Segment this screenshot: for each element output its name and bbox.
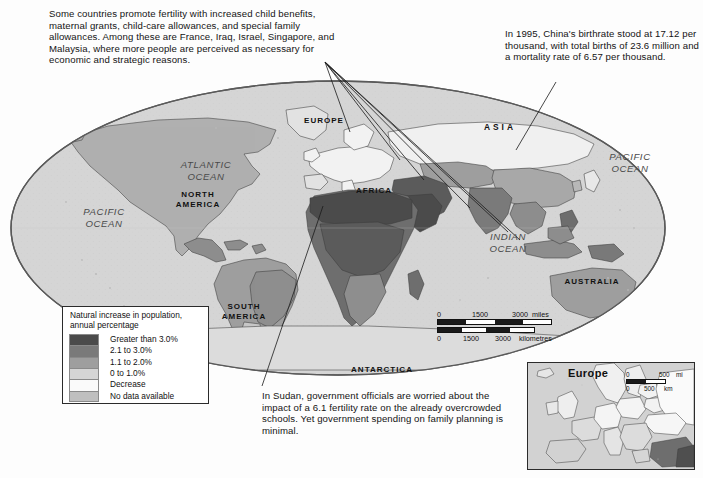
annotation-sudan-fertility: In Sudan, government officials are worri… (262, 390, 507, 436)
map-scale-bar: 0 1500 3000 miles 0 1500 3000 kilometres (437, 310, 552, 343)
annotation-fertility: Some countries promote fertility with in… (49, 8, 349, 66)
scale-km-ticks: 0 1500 3000 kilometres (437, 334, 552, 343)
inset-scale-mi-unit: mi (676, 371, 683, 378)
legend-row: 0 to 1.0% (69, 368, 203, 379)
legend-row: 1.1 to 2.0% (69, 357, 203, 368)
label-indian-ocean: INDIAN (490, 231, 526, 242)
label-south-america: SOUTH (228, 302, 261, 311)
annotation-china-birthrate: In 1995, China's birthrate stood at 17.1… (505, 28, 701, 63)
label-africa: AFRICA (356, 186, 392, 195)
legend-swatch (69, 345, 99, 356)
scale-miles-tick-1: 1500 (472, 310, 488, 319)
legend-label: Greater than 3.0% (110, 334, 178, 345)
inset-scale-miles-ticks: 0 500 mi (626, 371, 688, 379)
inset-scale-mi-tick-0: 0 (626, 371, 630, 378)
legend-label: 2.1 to 3.0% (110, 345, 152, 356)
legend-row: 2.1 to 3.0% (69, 345, 203, 356)
scale-km-tick-0: 0 (437, 334, 441, 343)
scale-bar-kilometres (437, 327, 535, 333)
legend-swatch (69, 379, 99, 390)
label-antarctica: ANTARCTICA (351, 365, 413, 374)
label-atlantic-ocean: ATLANTIC (180, 159, 231, 170)
label-australia: AUSTRALIA (564, 277, 619, 286)
inset-scale-bar-miles (626, 379, 666, 384)
map-legend: Natural increase in population, annual p… (62, 306, 209, 404)
label-europe: EUROPE (304, 116, 344, 125)
map-figure: NORTH AMERICA SOUTH AMERICA EUROPE AFRIC… (0, 0, 703, 478)
scale-miles-tick-2: 3000 (512, 310, 528, 319)
label-pacific-ocean-west: PACIFIC (83, 206, 124, 217)
landmass-north-africa (310, 191, 412, 226)
legend-label: Decrease (110, 379, 146, 390)
label-north-america-2: AMERICA (176, 200, 220, 209)
inset-scale-km-tick-1: 500 (644, 385, 655, 392)
label-north-america: NORTH (181, 190, 214, 199)
legend-swatch (69, 334, 99, 345)
legend-row: Decrease (69, 379, 203, 390)
inset-ireland (546, 401, 558, 415)
scale-miles-unit: miles (532, 310, 549, 319)
europe-inset-title: Europe (568, 367, 608, 379)
scale-miles-ticks: 0 1500 3000 miles (437, 310, 552, 319)
europe-inset-map: Europe 0 500 mi 0 500 km (527, 362, 695, 470)
legend-title: Natural increase in population, annual p… (70, 311, 203, 330)
legend-label: 1.1 to 2.0% (110, 357, 152, 368)
label-pacific-ocean-east-2: OCEAN (611, 163, 648, 174)
legend-swatch (69, 357, 99, 368)
label-asia: ASIA (484, 122, 516, 132)
landmass-korea (572, 180, 582, 192)
inset-scale-km-ticks: 0 500 km (626, 385, 688, 393)
legend-label: 0 to 1.0% (110, 368, 145, 379)
landmass-new-zealand (646, 308, 662, 330)
inset-scale-km-tick-0: 0 (626, 385, 630, 392)
scale-km-tick-2: 3000 (495, 334, 511, 343)
legend-swatch (69, 391, 99, 402)
inset-scale-km-unit: km (664, 385, 673, 392)
label-south-america-2: AMERICA (222, 312, 266, 321)
legend-row: No data available (69, 391, 203, 402)
legend-label: No data available (110, 391, 174, 402)
scale-km-unit: kilometres (519, 334, 552, 343)
label-pacific-ocean-west-2: OCEAN (85, 218, 122, 229)
scale-km-tick-1: 1500 (463, 334, 479, 343)
label-pacific-ocean-east: PACIFIC (609, 151, 650, 162)
legend-swatch (69, 368, 99, 379)
label-atlantic-ocean-2: OCEAN (187, 171, 224, 182)
scale-miles-tick-0: 0 (437, 310, 441, 319)
legend-row: Greater than 3.0% (69, 334, 203, 345)
inset-scale-bar: 0 500 mi 0 500 km (626, 371, 688, 393)
inset-scale-mi-tick-1: 500 (659, 371, 670, 378)
legend-rows: Greater than 3.0%2.1 to 3.0%1.1 to 2.0%0… (69, 334, 203, 402)
label-indian-ocean-2: OCEAN (489, 243, 526, 254)
